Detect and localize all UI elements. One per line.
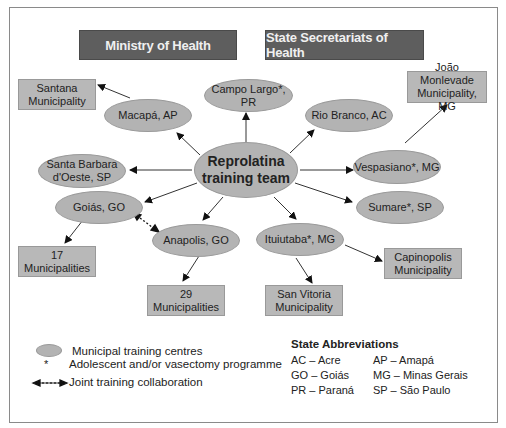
center-line2: training team	[202, 170, 290, 187]
m29-line2: Municipalities	[153, 301, 219, 314]
legend-centres-label: Municipal training centres	[72, 345, 202, 357]
legend-centres: Municipal training centres	[36, 344, 202, 357]
abbr-mg: MG – Minas Gerais	[373, 369, 468, 381]
capinopolis-line2: Municipality	[394, 264, 451, 277]
centre-rio-branco: Rio Branco, AC	[305, 99, 393, 132]
ellipse-legend-icon	[36, 344, 62, 357]
state-abbreviations-title: State Abbreviations	[291, 338, 399, 350]
m17-line1: 17	[51, 249, 63, 262]
municipalities-17: 17 Municipalities	[18, 246, 96, 277]
legend-joint: Joint training collaboration	[69, 376, 203, 388]
legend-joint-label: Joint training collaboration	[69, 376, 203, 388]
abbr-pr: PR – Paraná	[291, 384, 354, 396]
state-secretariats-header: State Secretariats of Health	[265, 30, 424, 60]
santana-line1: Santana	[37, 82, 78, 95]
santana-line2: Municipality	[28, 95, 85, 108]
centre-sumare: Sumare*, SP	[356, 191, 444, 224]
joao-line1: João Monlevade	[408, 61, 486, 87]
centre-goias: Goiás, GO	[55, 191, 143, 224]
san-vitoria-line1: San Vitoria	[277, 288, 331, 301]
centre-campo-largo: Campo Largo*, PR	[204, 79, 293, 112]
abbr-sp: SP – São Paulo	[373, 384, 450, 396]
municipality-santana: Santana Municipality	[18, 79, 96, 110]
san-vitoria-line2: Municipality	[275, 301, 332, 314]
municipality-capinopolis: Capinopolis Municipality	[384, 248, 462, 279]
m17-line2: Municipalities	[24, 262, 90, 275]
centre-ituiutaba: Ituiutaba*, MG	[256, 223, 344, 256]
municipality-san-vitoria: San Vitoria Municipality	[265, 285, 343, 316]
m29-line1: 29	[180, 288, 192, 301]
municipalities-29: 29 Municipalities	[147, 285, 225, 316]
ministry-of-health-header: Ministry of Health	[79, 30, 237, 60]
asterisk-icon: *	[44, 358, 58, 370]
legend-asterisk-label: Adolescent and/or vasectomy programme	[69, 358, 282, 370]
capinopolis-line1: Capinopolis	[394, 251, 451, 264]
legend-asterisk: * Adolescent and/or vasectomy programme	[44, 358, 282, 370]
abbr-ac: AC – Acre	[291, 354, 341, 366]
municipality-joao-monlevade: João Monlevade Municipality, MG	[407, 71, 487, 103]
joao-line2: Municipality, MG	[408, 87, 486, 113]
centre-vespasiano: Vespasiano*, MG	[353, 150, 441, 184]
reprolatina-training-team-node: Reprolatina training team	[194, 142, 298, 198]
center-line1: Reprolatina	[207, 153, 284, 170]
santa-barbara-line2: d'Oeste, SP	[53, 171, 111, 184]
santa-barbara-line1: Santa Barbara	[47, 158, 118, 171]
centre-anapolis: Anapolis, GO	[152, 224, 240, 257]
centre-santa-barbara: Santa Barbara d'Oeste, SP	[38, 154, 126, 188]
abbr-go: GO – Goiás	[291, 369, 349, 381]
centre-macapa: Macapá, AP	[104, 99, 192, 132]
abbr-ap: AP – Amapá	[373, 354, 434, 366]
